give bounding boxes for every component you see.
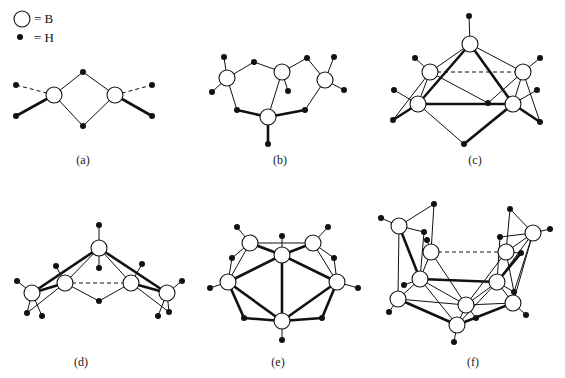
panel-c-label: (c) (468, 154, 481, 166)
panel-d-structure (14, 222, 185, 319)
panel-f-structure (378, 201, 553, 345)
legend (14, 11, 30, 40)
diagram-canvas (0, 0, 565, 378)
panel-d-label: (d) (74, 356, 88, 368)
borane-structures-figure: = B = H (a) (b) (c) (d) (e) (f) (0, 0, 565, 378)
panel-b-label: (b) (273, 154, 287, 166)
legend-boron-label: = B (34, 12, 53, 25)
panel-e-structure (207, 224, 361, 343)
panel-a-label: (a) (76, 154, 89, 166)
panel-e-label: (e) (271, 356, 284, 368)
legend-boron-symbol (14, 11, 30, 27)
legend-hydrogen-label: = H (34, 31, 54, 44)
panel-f-label: (f) (467, 356, 479, 368)
panel-a-structure (13, 69, 155, 129)
panel-c-structure (390, 13, 543, 147)
legend-hydrogen-symbol (17, 34, 23, 40)
panel-b-structure (209, 54, 347, 147)
